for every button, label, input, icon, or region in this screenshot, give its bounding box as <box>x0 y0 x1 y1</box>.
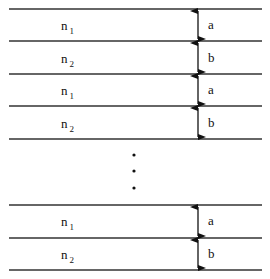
multilayer-diagram <box>0 0 270 279</box>
layer-index-label: n1 <box>61 18 74 36</box>
layer-index-label: n2 <box>61 116 74 134</box>
layer-boundaries <box>9 9 262 270</box>
thickness-label: b <box>208 246 215 262</box>
ellipsis-dots <box>132 153 135 189</box>
thickness-label: a <box>208 17 214 33</box>
layer-index-label: n2 <box>61 51 74 69</box>
thickness-label: a <box>208 82 214 98</box>
layer-index-label: n1 <box>61 214 74 232</box>
layer-index-label: n2 <box>61 247 74 265</box>
thickness-label: b <box>208 115 215 131</box>
thickness-label: b <box>208 50 215 66</box>
layer-index-label: n1 <box>61 83 74 101</box>
thickness-label: a <box>208 213 214 229</box>
